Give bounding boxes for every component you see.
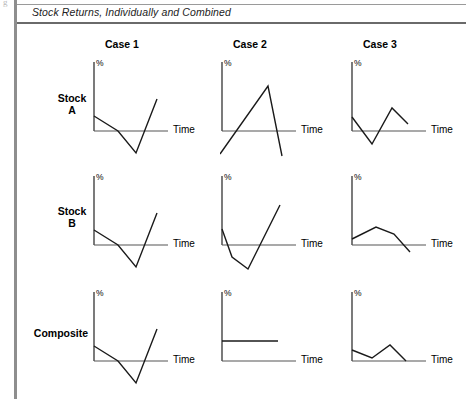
chart-stock-b-case-3 (350, 174, 435, 284)
y-axis-label-stock-a-case-3: % (354, 58, 362, 68)
column-header-case-1: Case 1 (105, 38, 139, 50)
series-line-stock-b-case-1 (94, 213, 157, 267)
row-label-stock-b-line2: B (68, 217, 76, 229)
chart-composite-case-1 (92, 290, 177, 399)
chart-stock-a-case-2 (220, 60, 305, 170)
row-label-stock-a-line1: Stock (58, 92, 87, 104)
series-line-stock-b-case-3 (352, 227, 410, 252)
series-line-composite-case-3 (352, 345, 406, 361)
y-axis-label-stock-a-case-1: % (96, 58, 104, 68)
chart-stock-b-case-3-svg (350, 174, 435, 284)
y-axis-label-stock-b-case-2: % (224, 172, 232, 182)
chart-composite-case-3 (350, 290, 435, 399)
left-margin-rule (14, 0, 17, 399)
chart-stock-b-case-1 (92, 174, 177, 284)
x-axis-label-composite-case-2: Time (301, 354, 323, 365)
header-top-divider (17, 4, 466, 5)
series-line-stock-a-case-3 (352, 108, 408, 144)
x-axis-label-composite-case-1: Time (173, 354, 195, 365)
row-label-stock-a: Stock A (50, 92, 94, 116)
x-axis-label-stock-b-case-1: Time (173, 238, 195, 249)
chart-stock-b-case-1-svg (92, 174, 177, 284)
chart-stock-a-case-1 (92, 60, 177, 170)
row-label-stock-b-line1: Stock (58, 205, 87, 217)
x-axis-label-stock-b-case-3: Time (431, 238, 453, 249)
row-label-stock-b: Stock B (50, 205, 94, 229)
chart-stock-b-case-2-svg (220, 174, 305, 284)
x-axis-label-stock-a-case-1: Time (173, 124, 195, 135)
y-axis-label-composite-case-1: % (96, 288, 104, 298)
chart-composite-case-2-svg (220, 290, 305, 399)
x-axis-label-stock-b-case-2: Time (301, 238, 323, 249)
chart-stock-a-case-3-svg (350, 60, 435, 170)
y-axis-label-stock-b-case-1: % (96, 172, 104, 182)
row-label-composite-line1: Composite (34, 327, 88, 339)
figure-title: Stock Returns, Individually and Combined (32, 6, 231, 18)
row-label-composite: Composite (28, 327, 94, 339)
x-axis-label-stock-a-case-3: Time (431, 124, 453, 135)
chart-composite-case-1-svg (92, 290, 177, 399)
column-header-case-3: Case 3 (363, 38, 397, 50)
y-axis-label-stock-b-case-3: % (354, 172, 362, 182)
y-axis-label-composite-case-2: % (224, 288, 232, 298)
chart-stock-b-case-2 (220, 174, 305, 284)
x-axis-label-stock-a-case-2: Time (301, 124, 323, 135)
chart-stock-a-case-2-svg (220, 60, 305, 170)
y-axis-label-stock-a-case-2: % (224, 58, 232, 68)
chart-composite-case-2 (220, 290, 305, 399)
series-line-stock-a-case-1 (94, 99, 157, 153)
chart-stock-a-case-3 (350, 60, 435, 170)
y-axis-label-composite-case-3: % (354, 288, 362, 298)
series-line-stock-a-case-2 (220, 86, 282, 156)
chart-composite-case-3-svg (350, 290, 435, 399)
row-label-stock-a-line2: A (68, 104, 76, 116)
series-line-composite-case-1 (94, 329, 157, 383)
chart-stock-a-case-1-svg (92, 60, 177, 170)
corner-artifact-glyph: g (3, 0, 8, 7)
column-header-case-2: Case 2 (233, 38, 267, 50)
header-bottom-divider (17, 22, 466, 24)
series-line-stock-b-case-2 (222, 205, 280, 269)
x-axis-label-composite-case-3: Time (431, 354, 453, 365)
